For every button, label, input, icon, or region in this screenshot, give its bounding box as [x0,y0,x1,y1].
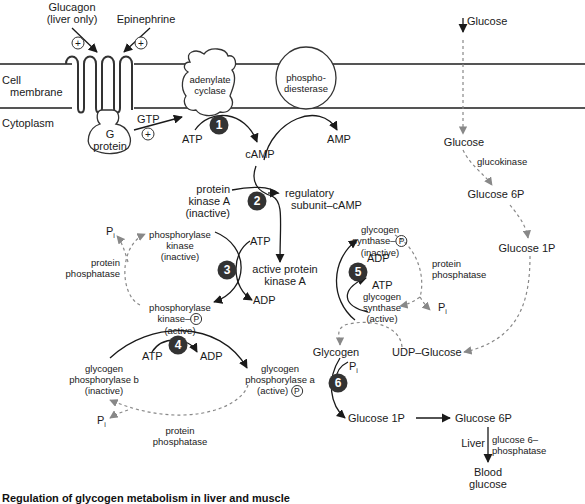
label-line: cyclase [189,85,230,96]
adp-label: ADP [253,294,276,306]
phosphate-icon: P [190,313,202,325]
label-line: adenylate [189,74,230,85]
label-text: synthase– [352,235,395,246]
glycogen-phosphorylase-b-label: glycogen phosphorylase b (inactive) [69,363,139,396]
glucose-outside-label: Glucose [467,15,507,27]
label-line: glycogen [352,224,407,235]
label-line: diesterase [284,83,328,94]
g-protein-label: G protein [93,128,127,152]
label-line: glucose 6– [492,434,546,445]
adp-label: ADP [200,350,223,362]
label-line: glycogen [363,291,401,302]
figure-caption: Regulation of glycogen metabolism in liv… [2,492,290,504]
receptor [66,57,132,113]
label-text: kinase– [158,313,191,324]
pi-label: Pi [106,225,115,242]
step-4-badge: 4 [169,336,188,355]
label-line: phosphatase [432,269,486,280]
phosphate-icon: P [291,385,303,397]
stimulate-plus-icon: + [142,128,155,141]
label-line: phosphorylase [149,229,211,240]
label-line: phosphorylase b [69,374,139,385]
label-line: protein [66,257,120,268]
label-line: kinase A [185,195,230,207]
label-line: (active) P [245,385,315,397]
label-text: (active) [257,385,288,396]
label-line: (liver only) [47,13,98,25]
pi-label: Pi [349,360,358,377]
label-line: active protein [252,263,317,275]
regulatory-subunit-label: regulatory subunit–cAMP [285,187,362,211]
step-1-badge: 1 [210,116,229,135]
label-line: Blood [469,466,507,478]
label-line: phosphatase [153,436,207,447]
atp-label: ATP [372,279,393,291]
liver-label: Liver [461,437,485,449]
stimulate-plus-icon: + [72,37,85,50]
label-line: regulatory [285,187,362,199]
glucose-inside-label: Glucose [444,136,484,148]
label-line: glucose [469,478,507,490]
label-line: membrane [2,86,63,98]
phk-inactive-label: phosphorylase kinase (inactive) [149,229,211,262]
epinephrine-label: Epinephrine [117,13,176,25]
label-line: glycogen [69,363,139,374]
glycogen-phosphorylase-a-label: glycogen phosphorylase a (active) P [245,363,315,397]
pi-subscript: i [356,367,358,374]
glucose-1p-label: Glucose 1P [499,242,556,254]
camp-label: cAMP [245,148,274,160]
atp-label: ATP [250,235,271,247]
label-line: glycogen [245,363,315,374]
label-line: Cell [2,74,63,86]
blood-glucose-label: Blood glucose [469,466,507,490]
label-line: synthase [363,302,401,313]
protein-phosphatase-label: protein phosphatase [153,425,207,447]
step-3-badge: 3 [218,261,237,280]
glucose-1p-bottom-label: Glucose 1P [348,412,405,424]
pi-label: Pi [97,414,106,431]
label-line: kinase–P [149,313,211,325]
step-5-badge: 5 [349,263,368,282]
phosphate-icon: P [396,235,408,247]
label-line: phosphatase [66,268,120,279]
adenylate-cyclase-label: adenylate cyclase [189,74,230,96]
pka-active-label: active protein kinase A [252,263,317,287]
stimulate-plus-icon: + [135,37,148,50]
phosphodiesterase-label: phospho- diesterase [284,72,328,94]
label-line: phospho- [284,72,328,83]
step-2-badge: 2 [248,192,267,211]
udp-glucose-label: UDP–Glucose [392,346,462,358]
label-line: kinase [149,240,211,251]
cytoplasm-label: Cytoplasm [2,117,54,129]
step-6-badge: 6 [329,374,348,393]
glucose-6p-bottom-label: Glucose 6P [455,412,512,424]
glucokinase-label: glucokinase [477,156,527,167]
pka-inactive-label: protein kinase A (inactive) [185,183,230,219]
label-line: synthase–P [352,235,407,247]
glucose-6p-label: Glucose 6P [468,188,525,200]
atp-label: ATP [182,133,203,145]
label-line: (active) [363,313,401,324]
label-line: phosphorylase a [245,374,315,385]
label-line: (inactive) [149,251,211,262]
pi-subscript: i [445,308,447,315]
label-line: kinase A [252,275,317,287]
glycogen-synthase-active-label: glycogen synthase (active) [363,291,401,324]
protein-phosphatase-label: protein phosphatase [432,258,486,280]
pi-subscript: i [104,421,106,428]
label-line: protein [432,258,486,269]
pi-label: Pi [438,301,447,318]
label-line: subunit–cAMP [285,199,362,211]
label-line: (inactive) [69,385,139,396]
atp-label: ATP [142,350,163,362]
pi-subscript: i [113,232,115,239]
label-line: protein [93,140,127,152]
label-line: phosphorylase [149,302,211,313]
protein-phosphatase-label: protein phosphatase [66,257,120,279]
label-line: protein [185,183,230,195]
glycogen-label: Glycogen [313,346,359,358]
amp-label: AMP [327,133,351,145]
label-line: G [93,128,127,140]
glucagon-label: Glucagon (liver only) [47,1,98,25]
phk-active-label: phosphorylase kinase–P (active) [149,302,211,336]
